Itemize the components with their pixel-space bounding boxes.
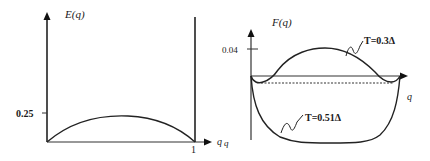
left-xlabel: q bbox=[217, 136, 222, 147]
left-y-axis-arrow-icon bbox=[44, 12, 51, 20]
right-ylabel: F(q) bbox=[271, 16, 292, 29]
left-ytick-label: 0.25 bbox=[16, 108, 34, 119]
stray-q-label: q bbox=[224, 138, 229, 148]
right-curve-t03 bbox=[251, 48, 400, 83]
figure: E(q) 0.25 1 q F(q) 0.04 T=0.3Δ T=0.51Δ q… bbox=[0, 0, 430, 161]
left-curve-eq bbox=[47, 116, 195, 142]
label-t051: T=0.51Δ bbox=[305, 112, 342, 123]
right-ytick-label: 0.04 bbox=[222, 45, 238, 55]
right-curve-t051 bbox=[251, 76, 400, 143]
left-x-axis-arrow-icon bbox=[204, 139, 212, 146]
right-xlabel: q bbox=[407, 91, 412, 102]
left-chart: E(q) 0.25 1 q bbox=[16, 8, 222, 155]
right-x-axis-arrow-icon bbox=[400, 73, 408, 80]
label-t03: T=0.3Δ bbox=[364, 35, 396, 46]
right-y-axis-arrow-icon bbox=[248, 29, 255, 37]
left-xtick-label: 1 bbox=[191, 144, 196, 155]
lower-label-leader bbox=[281, 115, 303, 133]
left-ylabel: E(q) bbox=[64, 8, 85, 21]
right-chart: F(q) 0.04 T=0.3Δ T=0.51Δ q q bbox=[222, 16, 412, 148]
